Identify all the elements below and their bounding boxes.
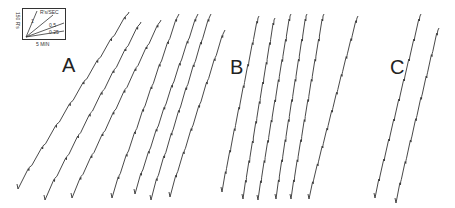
cumulative-record-b-6 <box>308 16 358 199</box>
scale-legend: R's/SEC 1 0.5 0.25 <box>22 8 66 40</box>
panel-label-a: A <box>62 54 75 77</box>
y-scale-label: 150 R's <box>15 12 21 29</box>
cumulative-record-b-5 <box>290 14 324 199</box>
rate-0.5-label: 0.5 <box>49 22 56 28</box>
cumulative-record-figure: R's/SEC 1 0.5 0.25 150 R's 5 MIN A B C <box>0 0 455 208</box>
panel-label-b: B <box>230 56 243 79</box>
cumulative-record-c-1 <box>374 14 421 198</box>
rate-0.25-label: 0.25 <box>49 29 59 35</box>
cumulative-record-a-3 <box>71 20 161 198</box>
cumulative-record-a-4 <box>111 14 179 198</box>
cumulative-record-a-2 <box>44 22 141 200</box>
cumulative-record-b-3 <box>257 14 291 200</box>
x-scale-label: 5 MIN <box>36 41 49 47</box>
cumulative-record-a-6 <box>150 14 211 200</box>
cumulative-record-b-4 <box>275 14 307 199</box>
cumulative-record-b-1 <box>221 16 259 192</box>
cumulative-record-b-2 <box>242 18 275 199</box>
cumulative-record-c-2 <box>395 28 439 203</box>
cumulative-record-a-5 <box>134 14 198 194</box>
rate-unit-label: R's/SEC <box>40 9 59 15</box>
cumulative-records-plot <box>0 0 455 208</box>
panel-label-c: C <box>390 56 404 79</box>
rate-1-label: 1 <box>31 18 34 24</box>
